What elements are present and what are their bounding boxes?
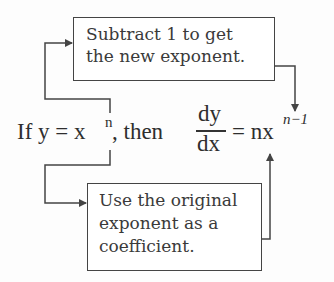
fraction-numerator: dy (198, 101, 221, 127)
arrow-top-box-to-new-exponent (275, 66, 295, 111)
arrow-bottom-box-to-coefficient (261, 154, 270, 239)
fraction-denominator: dx (197, 131, 220, 157)
bottom-box-line-2: exponent as a (99, 213, 218, 234)
equation-rhs-exponent: n−1 (283, 111, 308, 128)
bottom-box-line-3: coefficient. (99, 236, 195, 257)
bottom-box-line-1: Use the original (99, 190, 237, 211)
top-box-line-2: the new exponent. (86, 46, 245, 67)
equation-middle: , then (112, 119, 163, 145)
top-box-line-1: Subtract 1 to get (86, 24, 233, 45)
equation-rhs: = nx (232, 119, 274, 145)
equation-prefix: If y = x (17, 119, 86, 145)
